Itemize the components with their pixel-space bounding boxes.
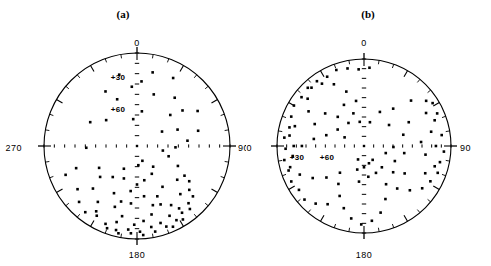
data-point (162, 149, 165, 152)
data-point (298, 189, 301, 192)
azimuth-major-tick (433, 103, 439, 107)
data-point (99, 176, 102, 179)
data-point (130, 232, 133, 235)
data-point (141, 160, 144, 163)
data-point (161, 186, 164, 189)
azimuth-major-tick (211, 189, 217, 193)
azimuth-minor-tick (446, 131, 450, 132)
azimuth-minor-tick (152, 54, 153, 58)
data-point (76, 188, 79, 191)
azimuth-minor-tick (334, 224, 335, 228)
data-point (139, 230, 142, 233)
azimuth-major-tick (433, 186, 439, 190)
data-point (394, 160, 397, 163)
azimuth-minor-tick (167, 230, 168, 234)
azimuth-minor-tick (378, 228, 379, 232)
azimuth-major-tick (180, 65, 184, 71)
data-point (97, 201, 100, 204)
data-point (345, 90, 348, 93)
azimuth-minor-tick (77, 214, 80, 217)
data-point (313, 123, 316, 126)
data-point (294, 125, 297, 128)
data-point (290, 180, 293, 183)
data-point (357, 158, 360, 161)
data-point (95, 214, 98, 217)
data-point (321, 82, 324, 85)
data-point (324, 112, 327, 115)
data-point (379, 211, 382, 214)
azimuth-label-90: 90 (460, 143, 471, 153)
data-point (173, 96, 176, 99)
data-point (403, 152, 406, 155)
azimuth-major-tick (321, 215, 325, 221)
azimuth-minor-tick (417, 79, 420, 82)
data-point (338, 195, 341, 198)
azimuth-major-tick (211, 100, 217, 104)
azimuth-label-180: 180 (129, 250, 146, 260)
data-point (181, 211, 184, 214)
data-point (436, 172, 439, 175)
data-point (176, 178, 179, 181)
azimuth-minor-tick (225, 130, 229, 131)
data-point (288, 134, 291, 137)
azimuth-minor-tick (417, 210, 420, 213)
azimuth-minor-tick (221, 176, 225, 177)
projection-centre (136, 145, 138, 147)
azimuth-minor-tick (205, 86, 208, 89)
data-point (303, 198, 306, 201)
data-point (168, 214, 171, 217)
data-point (152, 204, 155, 207)
data-point (132, 118, 135, 121)
data-point (150, 226, 153, 229)
data-point (440, 134, 443, 137)
data-point (325, 134, 328, 137)
data-point (314, 202, 317, 205)
azimuth-minor-tick (66, 86, 69, 89)
data-point (350, 217, 353, 220)
azimuth-major-tick (180, 220, 184, 226)
data-point (105, 119, 108, 122)
azimuth-minor-tick (105, 230, 106, 234)
data-point (104, 90, 107, 93)
data-point (175, 219, 178, 222)
data-point (137, 164, 140, 167)
azimuth-major-tick (404, 71, 408, 77)
data-point (403, 172, 406, 175)
azimuth-major-tick (91, 220, 95, 226)
azimuth-minor-tick (121, 54, 122, 58)
azimuth-minor-tick (334, 64, 335, 68)
data-point (284, 147, 287, 150)
data-point (92, 187, 95, 190)
data-point (367, 175, 370, 178)
data-point (95, 210, 98, 213)
azimuth-minor-tick (194, 75, 197, 78)
data-point (84, 211, 87, 214)
data-point (425, 112, 428, 115)
azimuth-minor-tick (392, 64, 393, 68)
data-point (425, 100, 428, 103)
data-point (301, 145, 304, 148)
data-point (326, 203, 329, 206)
data-point (143, 195, 146, 198)
data-point (429, 180, 432, 183)
data-point (142, 234, 145, 237)
azimuth-minor-tick (221, 114, 225, 115)
azimuth-minor-tick (297, 90, 300, 93)
data-point (188, 189, 191, 192)
radial-label-60: +60 (111, 105, 126, 114)
figure-root: (a) 090180270+30+60 (b) 090180270+30+60 (0, 0, 491, 266)
data-point (121, 215, 124, 218)
data-point (356, 168, 359, 171)
data-point (131, 85, 134, 88)
data-point (388, 124, 391, 127)
data-point (363, 166, 366, 169)
data-point (177, 165, 180, 168)
data-point (150, 173, 153, 176)
data-point (75, 167, 78, 170)
data-point (187, 202, 190, 205)
data-point (116, 98, 119, 101)
data-point (392, 107, 395, 110)
data-point (392, 171, 395, 174)
azimuth-label-0: 0 (134, 38, 140, 48)
panel-a-plot: 090180270+30+60 (0, 0, 246, 266)
